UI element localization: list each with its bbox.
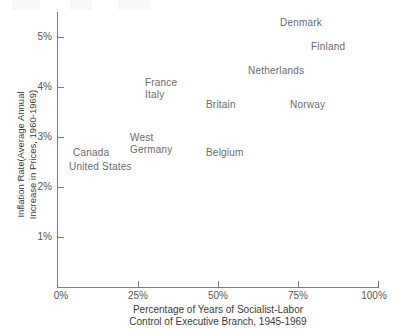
y-axis-line: [57, 12, 58, 288]
data-label-france: France: [145, 77, 177, 88]
y-tick-2: [58, 187, 64, 188]
y-tick-label-5: 5%: [12, 32, 52, 42]
data-label-italy: Italy: [145, 89, 164, 100]
x-tick-50: [218, 281, 219, 287]
x-tick-0: [57, 281, 58, 287]
data-label-britain: Britain: [206, 99, 236, 110]
x-tick-label-0: 0%: [54, 290, 68, 301]
scan-artifact: [0, 0, 399, 10]
y-tick-1: [58, 237, 64, 238]
y-tick-5: [58, 37, 64, 38]
data-label-united-states: United States: [69, 161, 132, 172]
data-label-netherlands: Netherlands: [248, 65, 304, 76]
y-tick-4: [58, 87, 64, 88]
x-tick-label-100: 100%: [361, 290, 387, 301]
data-label-belgium: Belgium: [206, 147, 244, 158]
y-tick-3: [58, 137, 64, 138]
data-label-denmark: Denmark: [280, 17, 322, 28]
x-tick-label-25: 25%: [128, 290, 148, 301]
x-tick-label-75: 75%: [288, 290, 308, 301]
x-tick-75: [298, 281, 299, 287]
x-tick-label-50: 50%: [208, 290, 228, 301]
x-tick-25: [138, 281, 139, 287]
x-tick-100: [378, 281, 379, 287]
x-axis-title: Percentage of Years of Socialist-Labor C…: [57, 304, 379, 327]
data-label-canada: Canada: [73, 147, 109, 158]
data-label-west-germany: West Germany: [130, 132, 173, 156]
data-label-finland: Finland: [311, 41, 345, 52]
x-axis-line: [57, 287, 379, 288]
y-axis-title: Inflation Rate(Average Annual Increase i…: [15, 60, 38, 250]
data-label-norway: Norway: [290, 99, 325, 110]
scatter-chart: 5% 4% 3% 2% 1% 0% 25% 50% 75% 100% Infla…: [0, 0, 399, 329]
